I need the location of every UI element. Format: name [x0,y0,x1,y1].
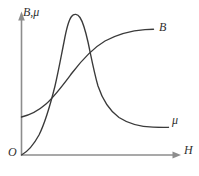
y-axis-label: B,μ [23,6,39,18]
bmu-vs-h-plot [0,0,199,176]
origin-label: O [8,146,17,158]
curve-mu-label: μ [172,114,178,126]
curve-b-label: B [159,21,166,33]
curve-mu [22,14,169,155]
x-axis-label: H [184,144,193,156]
figure-container: B,μ O H B μ [0,0,199,176]
x-axis-arrowhead [173,152,182,159]
x-axis [22,152,182,159]
y-axis [18,12,25,156]
